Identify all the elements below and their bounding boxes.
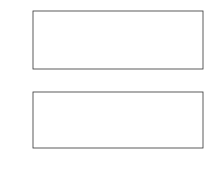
bottom-plot xyxy=(0,0,203,148)
bottom-plot-frame xyxy=(33,92,203,148)
top-plot-frame xyxy=(33,11,203,69)
figure xyxy=(0,0,211,174)
top-plot xyxy=(0,0,203,69)
